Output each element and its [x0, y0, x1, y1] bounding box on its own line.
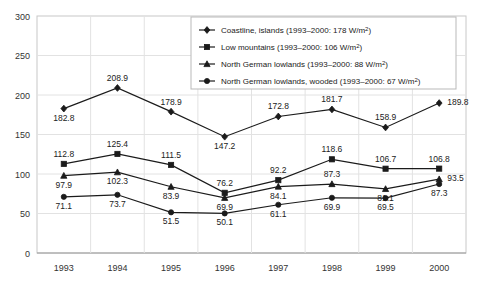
data-label: 106.8	[429, 154, 451, 164]
data-label: 93.5	[447, 173, 464, 183]
data-label: 106.7	[375, 154, 397, 164]
legend-label: North German lowlands (1993–2000: 88 W/m…	[221, 60, 388, 70]
data-label: 172.8	[268, 101, 290, 111]
data-label: 112.8	[53, 149, 74, 159]
data-label: 178.9	[160, 97, 182, 107]
data-label: 182.8	[53, 113, 75, 123]
marker-square	[437, 166, 442, 171]
y-axis-tick-label: 100	[15, 170, 30, 180]
marker-circle	[204, 78, 209, 83]
marker-circle	[276, 202, 281, 207]
marker-circle	[115, 192, 120, 197]
marker-square	[329, 157, 334, 162]
marker-diamond	[168, 108, 174, 115]
legend-item-2[interactable]: Low mountains (1993–2000: 106 W/m2)	[199, 43, 363, 53]
data-label: 102.3	[107, 176, 129, 186]
marker-square	[61, 161, 66, 166]
data-label: 73.7	[109, 199, 126, 209]
legend-label: North German lowlands, wooded (1993–2000…	[221, 77, 421, 87]
marker-circle	[61, 194, 66, 199]
data-label: 76.2	[216, 178, 233, 188]
data-label: 181.7	[321, 94, 343, 104]
marker-diamond	[329, 106, 335, 113]
legend-label: Low mountains (1993–2000: 106 W/m2)	[221, 43, 363, 53]
x-axis-tick-label: 2000	[429, 263, 449, 273]
x-axis-tick-label: 1996	[215, 263, 235, 273]
data-label: 83.9	[163, 191, 180, 201]
data-label: 71.1	[56, 201, 73, 211]
marker-diamond	[61, 105, 67, 112]
marker-circle	[329, 195, 334, 200]
legend-paren: )	[368, 26, 371, 35]
line-chart: 0501001502002503001993199419951996199719…	[0, 0, 480, 294]
data-label: 125.4	[107, 139, 129, 149]
data-label: 118.6	[322, 144, 343, 154]
marker-square	[383, 166, 388, 171]
y-axis-tick-label: 200	[15, 91, 30, 101]
legend-label: Coastline, islands (1993–2000: 178 W/m2)	[221, 26, 371, 36]
x-axis-tick-label: 1993	[54, 263, 74, 273]
marker-square	[204, 44, 209, 49]
x-axis-tick-label: 1994	[107, 263, 127, 273]
marker-triangle	[436, 176, 442, 182]
data-label: 69.5	[377, 202, 394, 212]
marker-circle	[168, 210, 173, 215]
data-label: 158.9	[375, 112, 397, 122]
x-axis-tick-label: 1998	[322, 263, 342, 273]
legend-paren: )	[360, 43, 363, 52]
marker-circle	[383, 195, 388, 200]
x-axis-tick-label: 1997	[268, 263, 288, 273]
data-label: 189.8	[447, 97, 469, 107]
data-label: 50.1	[216, 217, 233, 227]
marker-square	[276, 178, 281, 183]
data-label: 92.2	[270, 165, 287, 175]
data-label: 208.9	[107, 73, 129, 83]
marker-diamond	[115, 85, 121, 92]
marker-circle	[222, 211, 227, 216]
y-axis-tick-label: 250	[15, 51, 30, 61]
marker-diamond	[436, 100, 442, 107]
y-axis-tick-label: 300	[15, 12, 30, 22]
data-label: 61.1	[270, 209, 287, 219]
x-axis-tick-label: 1999	[376, 263, 396, 273]
y-axis-tick-label: 50	[20, 209, 30, 219]
x-axis-tick-label: 1995	[161, 263, 181, 273]
data-label: 84.1	[270, 191, 287, 201]
marker-diamond	[275, 113, 281, 120]
legend-paren: )	[418, 77, 421, 86]
data-label: 111.5	[161, 150, 181, 160]
data-label: 51.5	[163, 216, 180, 226]
chart-canvas: 0501001502002503001993199419951996199719…	[0, 0, 480, 294]
legend-item-4[interactable]: North German lowlands, wooded (1993–2000…	[199, 77, 421, 87]
marker-circle	[437, 181, 442, 186]
data-label: 69.9	[216, 202, 233, 212]
data-label: 87.3	[324, 169, 341, 179]
y-axis-tick-label: 0	[25, 249, 30, 259]
legend-item-3[interactable]: North German lowlands (1993–2000: 88 W/m…	[199, 60, 388, 70]
data-label: 97.9	[56, 180, 73, 190]
marker-square	[168, 162, 173, 167]
y-axis-tick-label: 150	[15, 130, 30, 140]
data-label: 147.2	[214, 141, 236, 151]
marker-diamond	[383, 124, 389, 131]
marker-square	[115, 151, 120, 156]
legend-item-1[interactable]: Coastline, islands (1993–2000: 178 W/m2)	[199, 26, 371, 36]
legend-paren: )	[385, 60, 388, 69]
data-label: 69.9	[324, 202, 341, 212]
data-label: 87.3	[431, 188, 448, 198]
